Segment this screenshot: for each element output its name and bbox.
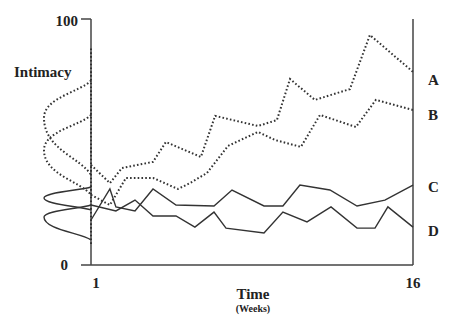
chart: 100 0 Intimacy 1 16 Time (Weeks) A B C D [0, 0, 454, 327]
series-line-c [91, 185, 413, 220]
initial-distribution-d [44, 205, 91, 240]
y-axis-label: Intimacy [14, 64, 72, 80]
x-axis-sublabel: (Weeks) [236, 303, 270, 315]
series-label-c: C [428, 179, 439, 195]
series-label-b: B [428, 107, 438, 123]
series-line-a [91, 35, 413, 183]
y-tick-label-100: 100 [56, 13, 79, 29]
x-tick-label-16: 16 [406, 275, 422, 291]
series-label-a: A [428, 72, 439, 88]
series-label-d: D [428, 223, 439, 239]
x-tick-label-1: 1 [92, 275, 100, 291]
series-line-b [91, 100, 413, 205]
series-lines [91, 35, 413, 233]
initial-distribution-b [44, 115, 91, 195]
x-axis-label: Time [236, 286, 269, 302]
y-tick-label-0: 0 [61, 257, 69, 273]
